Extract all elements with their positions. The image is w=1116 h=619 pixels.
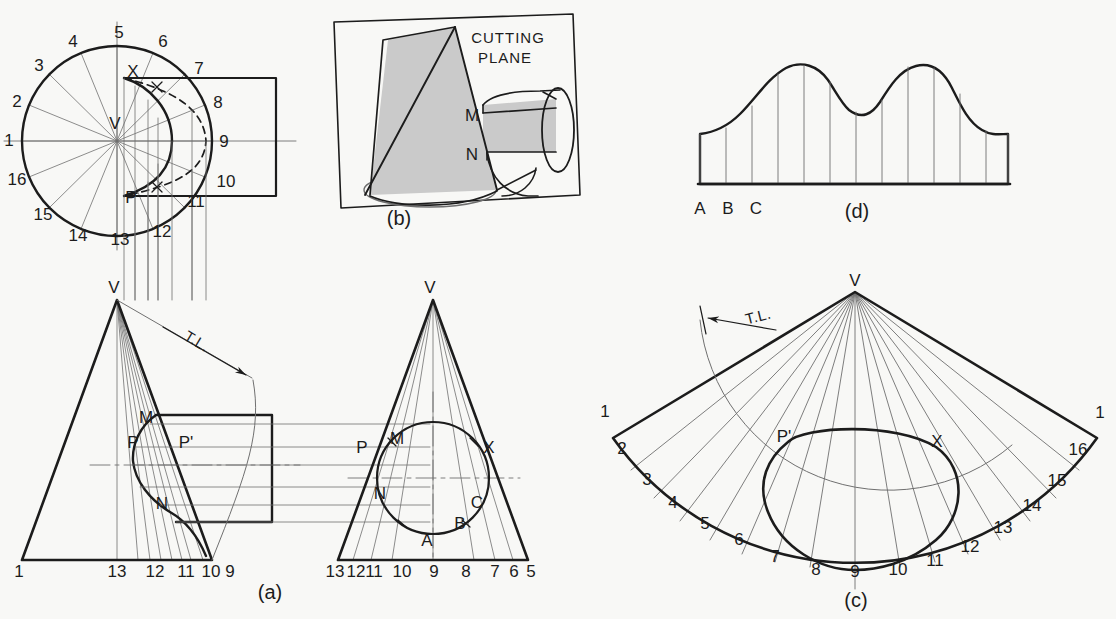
top-view-number-10: 10 — [217, 172, 236, 192]
development-element-lines — [613, 292, 1097, 589]
development-number-1R: 1 — [1095, 403, 1104, 423]
development-d-base — [700, 64, 1008, 184]
development-d-station-b: B — [722, 199, 733, 219]
development-number-3: 3 — [642, 470, 651, 490]
side-view-base-number-12: 12 — [347, 562, 366, 582]
top-view-number-3: 3 — [34, 56, 43, 76]
development-number-12: 12 — [961, 537, 980, 557]
development-number-1L: 1 — [600, 402, 609, 422]
development-number-5: 5 — [700, 514, 709, 534]
top-view-number-2: 2 — [12, 92, 21, 112]
development-intersection-curve — [763, 429, 958, 570]
front-view-base-number-13: 13 — [108, 562, 127, 582]
top-view-number-15: 15 — [34, 205, 53, 225]
front-view-base-number-12: 12 — [146, 562, 165, 582]
development-apex-label: V — [849, 271, 860, 291]
panel-d-caption: (d) — [845, 200, 869, 223]
cone-development-group — [613, 292, 1097, 589]
development-point-pp: P' — [777, 427, 792, 447]
drawing-page: 1 2 3 4 5 6 7 8 9 10 11 12 13 14 15 16 V… — [0, 0, 1116, 619]
top-view-number-7: 7 — [194, 59, 203, 79]
development-number-14: 14 — [1023, 496, 1042, 516]
pictorial-point-m: M — [465, 106, 479, 126]
top-view-number-14: 14 — [69, 226, 88, 246]
panel-c-caption: (c) — [844, 589, 867, 612]
side-view-base-number-11: 11 — [365, 562, 383, 582]
front-view-point-p: P — [127, 433, 138, 453]
top-view-apex-label: V — [109, 114, 120, 134]
side-view-point-c: C — [471, 493, 483, 513]
front-view-point-pp: P' — [179, 433, 194, 453]
side-view-point-b: B — [454, 514, 465, 534]
development-number-10: 10 — [889, 560, 908, 580]
development-number-8: 8 — [811, 560, 820, 580]
side-view-base-number-13: 13 — [326, 562, 345, 582]
top-view-number-8: 8 — [213, 93, 222, 113]
top-view-number-9: 9 — [219, 132, 228, 152]
development-number-7: 7 — [770, 547, 779, 567]
top-view-number-5: 5 — [114, 23, 123, 43]
front-view-base-number-1: 1 — [14, 562, 23, 582]
cylinder-development-group — [698, 64, 1010, 184]
side-view-base-number-10: 10 — [393, 562, 412, 582]
development-number-16: 16 — [1069, 440, 1088, 460]
front-view-point-m: M — [139, 408, 153, 428]
development-d-station-lines — [700, 66, 1008, 184]
side-view-base-number-6: 6 — [509, 562, 518, 582]
top-view-point-x: X — [127, 62, 138, 82]
front-view-apex-label: V — [108, 278, 119, 298]
front-view-point-n: N — [156, 494, 168, 514]
front-view-cylinder-rect — [156, 415, 272, 522]
top-view-number-13: 13 — [111, 230, 130, 250]
panel-b-caption: (b) — [387, 207, 411, 230]
side-view-base-number-9: 9 — [429, 562, 438, 582]
panel-a-caption: (a) — [258, 581, 282, 604]
development-number-6: 6 — [734, 530, 743, 550]
top-view-number-4: 4 — [68, 32, 77, 52]
front-view-group — [22, 300, 430, 560]
development-d-station-a: A — [694, 199, 705, 219]
front-view-tl-arc — [212, 380, 256, 560]
front-view-base-number-10: 10 — [202, 562, 221, 582]
development-number-15: 15 — [1048, 471, 1067, 491]
development-number-4: 4 — [668, 493, 677, 513]
top-view-number-12: 12 — [153, 222, 172, 242]
side-view-point-m: M — [390, 429, 404, 449]
top-view-number-11: 11 — [187, 192, 205, 212]
side-view-apex-label: V — [424, 278, 435, 298]
front-view-base-number-11: 11 — [177, 562, 195, 582]
side-view-point-p: P — [356, 438, 367, 458]
development-point-x: X — [931, 432, 942, 452]
cutting-plane-label-line1: CUTTING — [471, 30, 545, 46]
pictorial-point-n: N — [466, 145, 478, 165]
development-number-2: 2 — [617, 439, 626, 459]
side-view-group — [338, 300, 528, 560]
cylinder-notch-edge — [497, 170, 536, 190]
side-view-point-n: N — [374, 484, 386, 504]
side-view-base-number-8: 8 — [461, 562, 470, 582]
cutting-plane-label-line2: PLANE — [478, 50, 532, 66]
top-view-hidden-curve — [124, 78, 206, 196]
front-view-base-number-9: 9 — [225, 562, 234, 582]
top-view-number-1: 1 — [4, 131, 13, 151]
top-view-group — [4, 22, 296, 300]
side-view-point-x: X — [483, 438, 494, 458]
side-view-base-number-7: 7 — [490, 562, 499, 582]
top-view-point-p: P — [125, 188, 136, 208]
development-number-11: 11 — [926, 551, 944, 571]
development-number-9: 9 — [850, 562, 859, 582]
side-view-base-number-5: 5 — [526, 562, 535, 582]
development-d-station-c: C — [750, 199, 762, 219]
top-view-number-6: 6 — [158, 32, 167, 52]
side-view-point-a: A — [421, 531, 432, 551]
top-view-number-16: 16 — [8, 170, 27, 190]
development-number-13: 13 — [994, 518, 1013, 538]
